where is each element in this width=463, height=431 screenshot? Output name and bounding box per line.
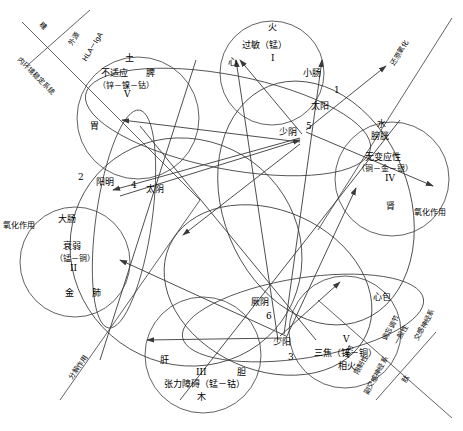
earth-zang-label: 脾 [146, 68, 155, 79]
wood-condition-label: 张力障碍（锰－钴） [164, 379, 245, 390]
meridian-shaoyin-number: 5 [306, 121, 312, 132]
line-cross-left [100, 60, 196, 360]
meridian-taiyang-label: 太阳 [311, 101, 329, 112]
water-phase-label: 水 [377, 119, 386, 130]
fire-condition-label: 过敏（锰） [242, 40, 287, 51]
metal-fu-label: 大肠 [58, 214, 76, 225]
meridian-jueyin-number: 6 [266, 311, 272, 322]
axis-label-oxidation-right: 氧化作用 [414, 207, 446, 218]
metal-phase-label: 金 [65, 288, 74, 299]
wood-fu-label: 胆 [237, 367, 246, 378]
arrow-shaoyin-to-taiyin [183, 144, 300, 235]
wood-zang-label: 肝 [160, 355, 169, 366]
wood-roman-label: III [196, 367, 207, 378]
meridian-shaoyin-label: 少阴 [279, 127, 297, 138]
meridian-taiyin-number: 4 [131, 180, 137, 191]
fire-phase-label: 火 [268, 22, 277, 33]
arrow-shaoyin-to-yangming [113, 138, 300, 190]
meridian-jueyin-label: 厥阴 [251, 297, 269, 308]
earth-circle [77, 57, 199, 179]
water-roman-label: IV [385, 173, 395, 184]
meridian-yangming-number: 2 [78, 172, 84, 183]
arrow-to-heart [240, 60, 302, 134]
meridian-yangming-label: 阳明 [96, 177, 114, 188]
interaction-arrows [100, 60, 433, 400]
arrow-shaoyin-to-stomach [122, 120, 300, 142]
earth-roman-label: V [124, 89, 131, 100]
ministerial-zang-label: 心包 [373, 292, 391, 303]
earth-fu-label: 胃 [90, 121, 99, 132]
arrow-to-liver [147, 338, 282, 340]
meridian-taiyang-number: 1 [334, 85, 340, 96]
meridian-shaoyang-number: 3 [288, 352, 294, 363]
fire-fu-label: 小肠 [303, 68, 321, 79]
metal-condition-label: 衰弱 [63, 241, 81, 252]
earth-condition-label: 不适应 [101, 68, 128, 79]
meridian-taiyin-label: 太阴 [146, 184, 164, 195]
water-fu-label: 膀胱 [371, 131, 389, 142]
shaoyin-ellipse [183, 51, 450, 354]
metal-roman-label: II [70, 263, 77, 274]
metal-zang-label: 肺 [92, 288, 101, 299]
earth-phase-label: 土 [125, 53, 134, 64]
fire-roman-label: I [271, 53, 275, 64]
water-zang-label: 肾 [386, 201, 395, 212]
diagram-canvas: 土 不适应 脾 （锌－镍－钴） V 胃 火 过敏（锰） I 心 小肠 水 膀胱 … [0, 0, 463, 431]
axis-label-oxidation-left: 氧化作用 [3, 220, 35, 231]
arrow-to-bladder [286, 188, 356, 338]
wood-phase-label: 木 [197, 392, 206, 403]
fire-zang-label: 心 [228, 57, 237, 68]
water-condition-label: 无变应性 [365, 152, 401, 163]
meridian-shaoyang-label: 少阳 [273, 337, 291, 348]
